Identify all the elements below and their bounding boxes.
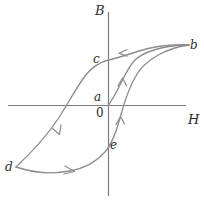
arrow-ascending-bottom-right-icon [64,166,75,174]
hysteresis-loop-svg [0,0,204,200]
h-axis-label: H [188,113,199,126]
hysteresis-loop-figure: B H 0 c a b d e [0,0,204,200]
arrow-descending-lower-left-icon [53,125,62,135]
point-label-b: b [190,39,198,51]
point-label-e: e [110,139,117,151]
origin-label: 0 [96,107,104,119]
point-label-c: c [93,53,100,65]
arrow-ascending-rising-icon [116,117,125,125]
point-label-d: d [5,161,13,173]
b-axis-label: B [95,4,105,17]
point-label-a: a [94,91,101,103]
arrow-initial-curve-icon [118,78,127,86]
arrow-descending-upper-left-icon [119,50,127,57]
